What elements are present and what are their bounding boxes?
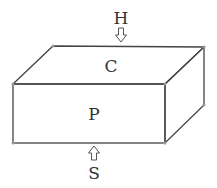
- label-p: P: [88, 104, 99, 124]
- arrow-down-icon: [116, 28, 127, 42]
- label-c: C: [104, 56, 117, 76]
- arrow-up-icon: [89, 146, 100, 160]
- label-h: H: [114, 8, 129, 28]
- right-face: [165, 47, 204, 143]
- label-s: S: [88, 163, 100, 183]
- box-diagram: H C P S: [0, 0, 217, 188]
